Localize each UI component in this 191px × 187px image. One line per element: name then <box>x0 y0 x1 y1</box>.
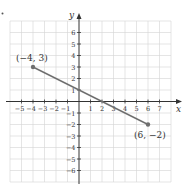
svg-text:−4: −4 <box>66 144 76 152</box>
y-axis-arrow-icon <box>77 13 82 19</box>
svg-text:2: 2 <box>100 105 104 113</box>
point-a-label: (−4, 3) <box>16 53 48 63</box>
corner-marker <box>2 13 4 15</box>
svg-text:−2: −2 <box>66 121 76 129</box>
point-b-label: (6, −2) <box>134 130 166 140</box>
svg-text:−2: −2 <box>49 105 59 113</box>
svg-text:6: 6 <box>146 105 150 113</box>
svg-text:−4: −4 <box>26 105 36 113</box>
point-b <box>146 122 150 126</box>
svg-text:2: 2 <box>71 75 75 83</box>
svg-text:−5: −5 <box>66 156 76 164</box>
x-tick-labels: −5 −4 −3 −2 −1 1 2 3 4 5 6 7 <box>15 105 162 113</box>
y-axis-label: y <box>68 10 75 20</box>
svg-text:5: 5 <box>71 41 75 49</box>
svg-text:−5: −5 <box>15 105 25 113</box>
svg-text:−1: −1 <box>66 110 76 118</box>
coordinate-plane: y x −5 −4 −3 −2 −1 1 2 3 4 5 6 7 <box>0 0 191 187</box>
svg-text:5: 5 <box>134 105 138 113</box>
svg-text:4: 4 <box>71 52 75 60</box>
svg-text:−3: −3 <box>66 133 76 141</box>
svg-text:−6: −6 <box>66 167 76 175</box>
svg-text:1: 1 <box>88 105 92 113</box>
svg-text:3: 3 <box>71 64 75 72</box>
svg-text:6: 6 <box>71 29 75 37</box>
svg-text:7: 7 <box>157 105 161 113</box>
x-axis-label: x <box>176 104 181 114</box>
svg-text:−3: −3 <box>38 105 48 113</box>
point-a <box>31 65 35 69</box>
